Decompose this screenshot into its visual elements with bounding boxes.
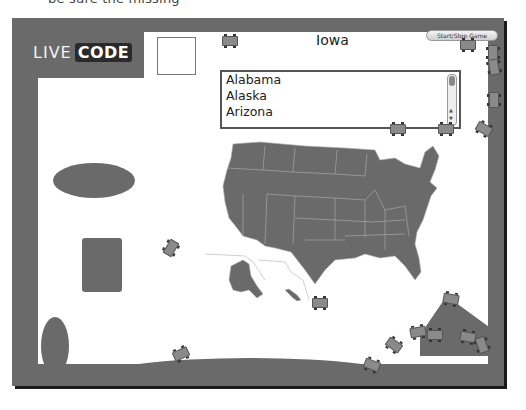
car-sprite[interactable] xyxy=(488,58,501,75)
map-alaska xyxy=(229,260,263,298)
car-sprite[interactable] xyxy=(442,293,459,306)
obstacle-ellipse xyxy=(53,163,135,198)
livecode-logo: LIVE CODE xyxy=(33,43,132,62)
car-sprite[interactable] xyxy=(363,358,381,373)
scroll-up-arrow-icon[interactable]: ▲ xyxy=(449,107,453,113)
car-sprite[interactable] xyxy=(427,330,443,340)
us-states-map[interactable] xyxy=(205,140,465,310)
car-sprite[interactable] xyxy=(390,124,406,134)
car-sprite[interactable] xyxy=(438,124,454,134)
current-state-title: Iowa xyxy=(316,32,349,48)
map-hawaii xyxy=(285,289,301,301)
state-listbox[interactable]: Alabama Alaska Arizona ▲ ▼ xyxy=(220,70,461,129)
list-item[interactable]: Alabama xyxy=(222,72,459,88)
car-sprite[interactable] xyxy=(475,336,490,354)
obstacle-rectangle xyxy=(82,238,122,292)
list-item[interactable]: Arizona xyxy=(222,104,459,120)
car-sprite[interactable] xyxy=(409,326,426,339)
listbox-scrollbar[interactable]: ▲ ▼ xyxy=(447,74,457,126)
logo-live-text: LIVE xyxy=(33,43,72,62)
car-sprite[interactable] xyxy=(312,298,328,308)
car-sprite[interactable] xyxy=(489,92,499,108)
car-sprite[interactable] xyxy=(222,36,238,46)
scroll-down-arrow-icon[interactable]: ▼ xyxy=(449,115,453,121)
logo-code-text: CODE xyxy=(75,43,133,62)
page-caption: be sure the missing xyxy=(48,0,180,6)
map-contiguous-us xyxy=(223,142,439,284)
scrollbar-thumb[interactable] xyxy=(449,76,455,86)
list-item[interactable]: Alaska xyxy=(222,88,459,104)
state-image-placeholder xyxy=(157,37,196,75)
car-sprite[interactable] xyxy=(460,40,476,50)
obstacle-vertical-ellipse xyxy=(41,317,69,375)
